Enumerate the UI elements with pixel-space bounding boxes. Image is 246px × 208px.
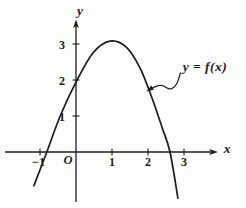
x-tick-label: 1 [109, 156, 115, 168]
x-tick-label: −1 [32, 156, 45, 168]
y-tick-label: 3 [59, 39, 65, 51]
function-curve [34, 41, 178, 198]
origin-label: O [63, 154, 72, 167]
curve-equation-annotation: y = f(x) [183, 60, 228, 74]
x-axis-label: x [224, 142, 231, 156]
y-tick-label: 2 [59, 75, 65, 87]
x-tick-label: 3 [181, 156, 187, 168]
plot-canvas [0, 0, 246, 208]
y-axis-label: y [77, 4, 83, 18]
function-graph-figure: y x O y = f(x) −1123123 [0, 0, 246, 208]
y-tick-label: 1 [59, 111, 65, 123]
x-tick-label: 2 [145, 156, 151, 168]
annotation-leader-squiggle [151, 73, 181, 90]
